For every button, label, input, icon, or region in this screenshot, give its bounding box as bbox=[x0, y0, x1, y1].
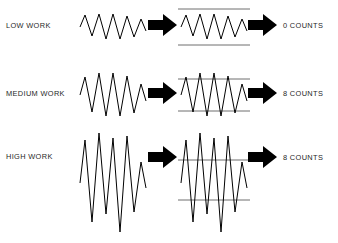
waveform-raw-low-path bbox=[80, 14, 146, 39]
right-arrow-icon bbox=[248, 146, 278, 168]
row-label-medium: MEDIUM WORK bbox=[6, 89, 65, 98]
right-arrow-shape bbox=[248, 82, 277, 104]
waveform-thresholded-low-svg bbox=[178, 4, 250, 50]
waveform-thresholded-medium-svg bbox=[178, 66, 250, 124]
right-arrow-icon-svg bbox=[248, 14, 278, 36]
diagram-row-medium: MEDIUM WORK 8 COUNTS bbox=[0, 64, 338, 126]
waveform-thresholded-low bbox=[178, 4, 250, 50]
waveform-raw-medium-svg bbox=[80, 66, 148, 124]
count-label-high: 8 COUNTS bbox=[283, 153, 323, 162]
right-arrow-shape bbox=[148, 14, 177, 36]
right-arrow-icon-svg bbox=[248, 146, 278, 168]
waveform-raw-medium-path bbox=[80, 73, 146, 116]
right-arrow-icon bbox=[148, 14, 178, 36]
waveform-thresholded-high-svg bbox=[178, 128, 250, 238]
right-arrow-icon bbox=[248, 82, 278, 104]
waveform-raw-high-path bbox=[80, 133, 146, 232]
right-arrow-icon-svg bbox=[148, 146, 178, 168]
waveform-raw-low bbox=[80, 4, 148, 50]
diagram-row-high: HIGH WORK 8 COUNTS bbox=[0, 126, 338, 243]
right-arrow-shape bbox=[148, 82, 177, 104]
right-arrow-icon bbox=[148, 82, 178, 104]
waveform-thresholded-high-path bbox=[181, 133, 247, 232]
waveform-raw-high-svg bbox=[80, 128, 148, 238]
waveform-thresholded-low-path bbox=[181, 14, 247, 39]
row-label-low: LOW WORK bbox=[6, 21, 51, 30]
right-arrow-icon-svg bbox=[148, 82, 178, 104]
waveform-raw-medium bbox=[80, 66, 148, 124]
waveform-thresholded-high bbox=[178, 128, 250, 238]
right-arrow-icon bbox=[148, 146, 178, 168]
diagram-row-low: LOW WORK 0 COUNTS bbox=[0, 0, 338, 64]
right-arrow-shape bbox=[248, 146, 277, 168]
waveform-raw-low-svg bbox=[80, 4, 148, 50]
right-arrow-icon-svg bbox=[248, 82, 278, 104]
row-label-high: HIGH WORK bbox=[6, 152, 53, 161]
count-label-medium: 8 COUNTS bbox=[283, 89, 323, 98]
right-arrow-icon-svg bbox=[148, 14, 178, 36]
work-counts-diagram: LOW WORK 0 COUNTS MEDIUM W bbox=[0, 0, 338, 243]
count-label-low: 0 COUNTS bbox=[283, 21, 323, 30]
waveform-raw-high bbox=[80, 128, 148, 238]
right-arrow-shape bbox=[248, 14, 277, 36]
waveform-thresholded-medium bbox=[178, 66, 250, 124]
right-arrow-shape bbox=[148, 146, 177, 168]
right-arrow-icon bbox=[248, 14, 278, 36]
